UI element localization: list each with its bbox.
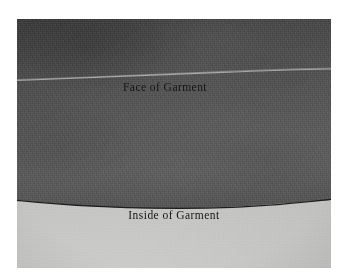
label-inside-of-garment: Inside of Garment [17, 209, 331, 221]
label-face-of-garment: Face of Garment [17, 81, 331, 93]
page-canvas: Face of Garment Inside of Garment [0, 0, 344, 280]
garment-photograph: Face of Garment Inside of Garment [17, 19, 331, 268]
fabric-grain-texture [17, 19, 331, 209]
face-of-garment-region [17, 19, 331, 209]
